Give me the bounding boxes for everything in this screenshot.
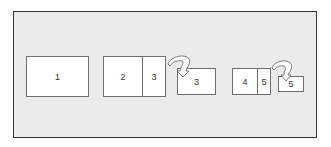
panel-1: 1 [26,56,89,97]
panel-5-folded-label: 5 [279,77,303,91]
panel-4-label: 4 [233,69,257,94]
panel-2-label: 2 [104,57,142,96]
panel-3-label: 3 [142,57,165,96]
panel-5-label: 5 [257,69,270,94]
panel-3-folded-label: 3 [178,69,215,94]
panel-4-5: 4 5 [232,68,271,95]
panel-5-folded: 5 [278,76,304,92]
panel-1-label: 1 [27,57,88,96]
panel-3-folded: 3 [177,68,216,95]
panel-2-3: 2 3 [103,56,166,97]
